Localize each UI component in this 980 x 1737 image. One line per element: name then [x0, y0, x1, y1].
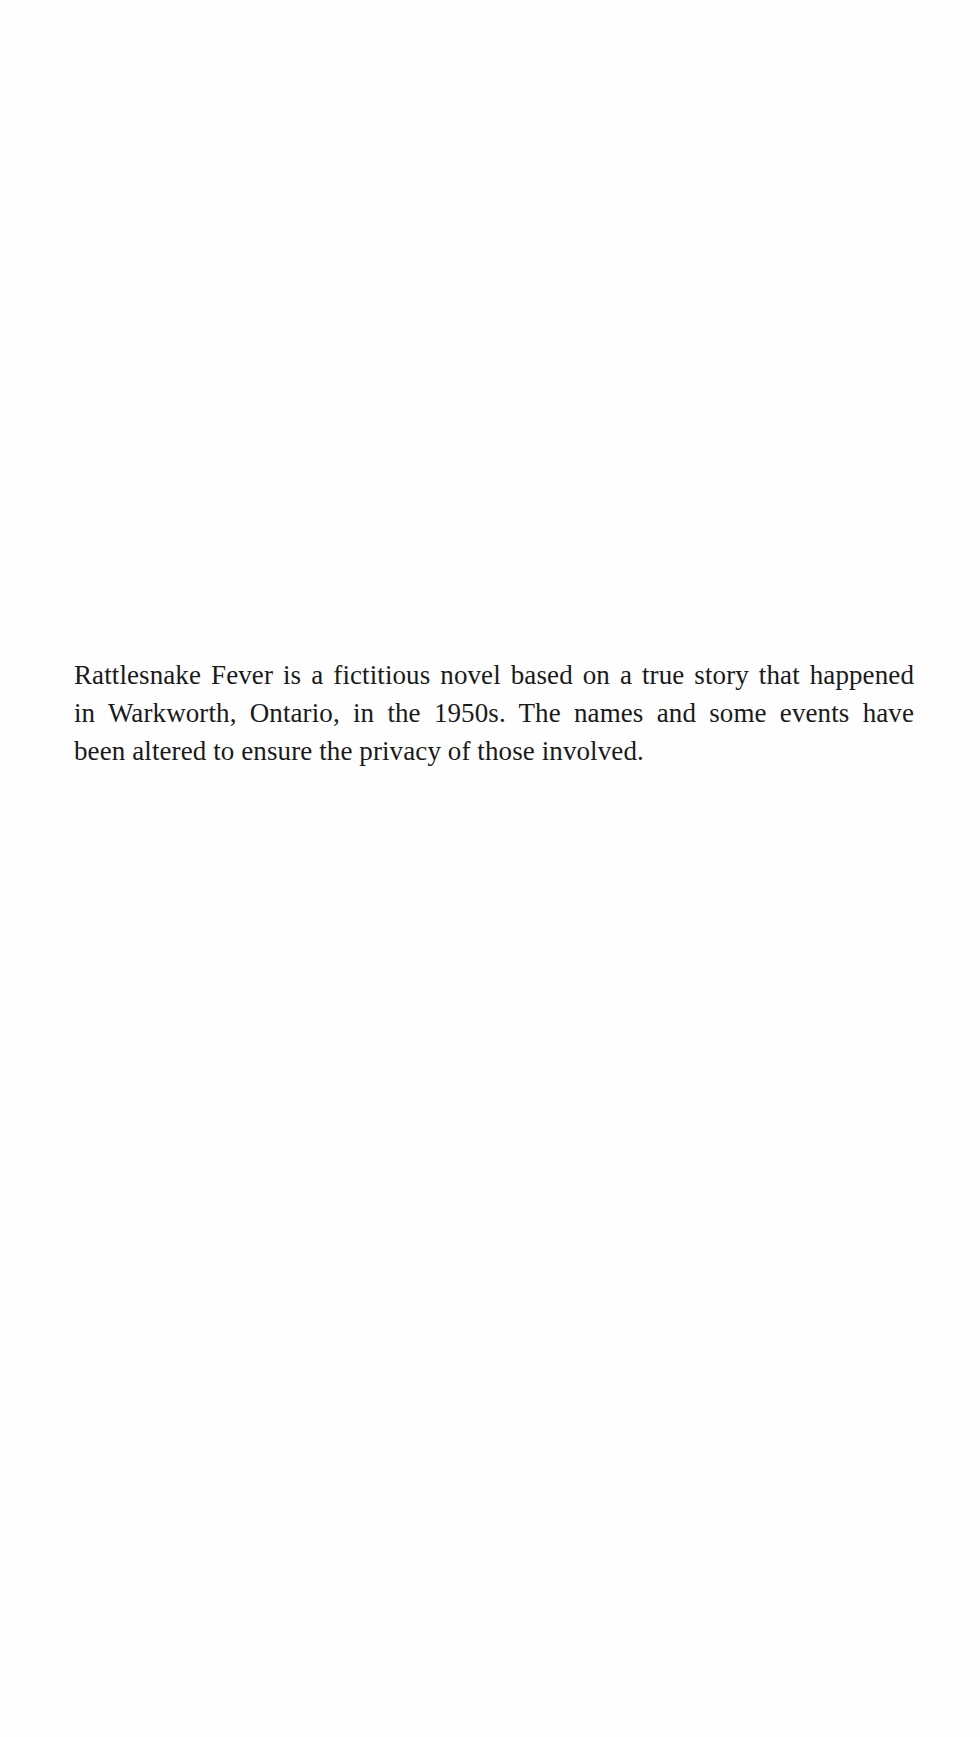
disclaimer-line-2: in Warkworth, Ontario, in the 1950s. The…	[74, 694, 914, 732]
book-page: Rattlesnake Fever is a fictitious novel …	[0, 0, 980, 1737]
disclaimer-line-1: Rattlesnake Fever is a fictitious novel …	[74, 656, 914, 694]
disclaimer-paragraph: Rattlesnake Fever is a fictitious novel …	[74, 656, 914, 770]
disclaimer-line-3: been altered to ensure the privacy of th…	[74, 732, 914, 770]
